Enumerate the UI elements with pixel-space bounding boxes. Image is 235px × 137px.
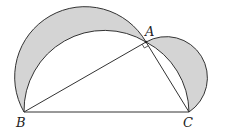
lune-ab <box>15 7 146 112</box>
lune-ac <box>146 37 207 112</box>
point-a <box>145 41 148 44</box>
lune-diagram: A B C <box>0 0 235 137</box>
label-c: C <box>183 115 193 130</box>
label-b: B <box>15 115 26 130</box>
label-a: A <box>144 24 154 39</box>
